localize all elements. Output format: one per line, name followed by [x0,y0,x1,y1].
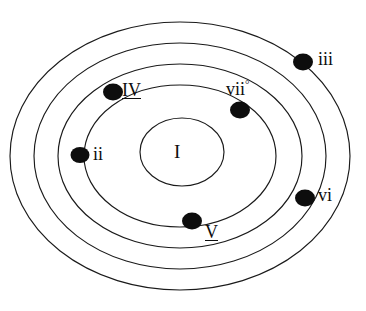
chord-node-ii [71,147,90,163]
chord-label-dominant-V: V [205,223,218,241]
diminished-symbol: ° [245,78,249,90]
chord-node-V [182,213,202,230]
chord-label-leading-tone-vii-dim: vii° [226,80,249,98]
chord-label-subdominant-IV: IV [122,81,141,99]
chord-label-mediant-iii: iii [318,50,333,68]
orbit-ring-5-tonic-core [140,118,224,186]
chord-label-tonic-I: I [174,142,180,161]
chord-label-supertonic-ii: ii [93,145,103,163]
leading-tone-numeral: vii [226,79,245,99]
tonal-orbit-diagram: I ii iii IV V vi vii° [0,0,366,311]
chord-node-vi [295,190,315,207]
chord-node-vii-dim [230,102,250,119]
orbit-svg-canvas [0,0,366,311]
chord-label-submediant-vi: vi [318,186,332,204]
chord-node-iii [293,54,313,71]
chord-node-IV [103,84,123,101]
